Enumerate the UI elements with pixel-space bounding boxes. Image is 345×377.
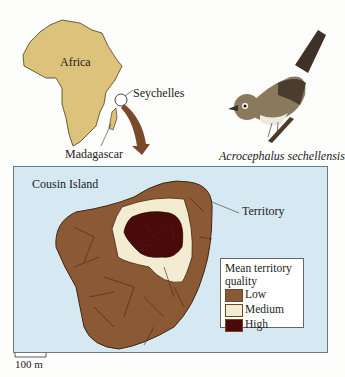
- madagascar-label: Madagascar: [65, 147, 123, 162]
- madagascar-island: [109, 108, 117, 130]
- bird-illustration: [220, 25, 330, 145]
- legend: Mean territory quality Low Medium High: [220, 258, 304, 328]
- legend-item-high: High: [225, 318, 299, 333]
- legend-title-2: quality: [225, 275, 299, 288]
- africa-label: Africa: [60, 55, 91, 70]
- species-label: Acrocephalus sechellensis: [219, 149, 345, 164]
- scale-label: 100 m: [15, 358, 43, 370]
- legend-item-low: Low: [225, 288, 299, 303]
- arrow-icon: [121, 104, 150, 155]
- island-title: Cousin Island: [32, 177, 98, 192]
- territory-label: Territory: [242, 204, 284, 219]
- legend-title-1: Mean territory: [225, 262, 299, 275]
- africa-continent: [23, 20, 122, 146]
- africa-map: [0, 0, 200, 165]
- legend-item-medium: Medium: [225, 303, 299, 318]
- seychelles-label: Seychelles: [133, 86, 184, 101]
